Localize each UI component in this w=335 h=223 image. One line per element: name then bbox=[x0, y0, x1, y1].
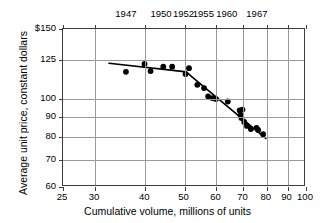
x-axis-title: Cumulative volume, millions of units bbox=[0, 205, 335, 217]
x-tick-top bbox=[185, 25, 186, 29]
x-tick-top bbox=[306, 25, 307, 29]
gridline-vertical bbox=[243, 29, 244, 185]
x-tick-label: 70 bbox=[237, 192, 248, 202]
gridline-vertical bbox=[288, 29, 289, 185]
year-tick-label: 1952 bbox=[173, 9, 194, 19]
data-point bbox=[123, 69, 129, 75]
x-tick-top bbox=[63, 25, 64, 29]
data-point bbox=[194, 82, 200, 88]
x-tick-label: 60 bbox=[210, 192, 221, 202]
x-tick-label: 25 bbox=[57, 192, 68, 202]
data-point bbox=[186, 65, 192, 71]
x-tick-top bbox=[216, 25, 217, 29]
gridline-vertical bbox=[267, 29, 268, 185]
x-tick-label: 40 bbox=[139, 192, 150, 202]
x-tick-top bbox=[243, 25, 244, 29]
x-tick-label: 80 bbox=[261, 192, 272, 202]
year-tick-label: 1955 bbox=[193, 9, 214, 19]
gridline-horizontal bbox=[63, 137, 304, 138]
year-tick-label: 1947 bbox=[115, 9, 136, 19]
gridline-horizontal bbox=[63, 117, 304, 118]
gridline-horizontal bbox=[63, 60, 304, 61]
data-point bbox=[255, 127, 261, 133]
y-tick bbox=[59, 160, 63, 161]
data-point bbox=[201, 85, 207, 91]
y-axis-title: Average unit price, constant dollars bbox=[17, 28, 29, 198]
y-tick bbox=[59, 117, 63, 118]
year-tick-label: 1950 bbox=[151, 9, 172, 19]
gridline-horizontal bbox=[63, 160, 304, 161]
y-tick-label: 100 bbox=[40, 93, 56, 103]
x-tick-top bbox=[95, 25, 96, 29]
x-tick-label: 90 bbox=[281, 192, 292, 202]
y-tick bbox=[59, 60, 63, 61]
gridline-vertical bbox=[185, 29, 186, 185]
data-point bbox=[169, 64, 175, 70]
data-point bbox=[160, 64, 166, 70]
year-tick-label: 1967 bbox=[246, 9, 267, 19]
year-tick-label: 1960 bbox=[216, 9, 237, 19]
gridline-vertical bbox=[145, 29, 146, 185]
y-tick-label: $150 bbox=[35, 23, 56, 33]
y-tick bbox=[59, 187, 63, 188]
gridline-vertical bbox=[216, 29, 217, 185]
y-tick-label: 70 bbox=[45, 154, 56, 164]
x-tick-label: 100 bbox=[297, 192, 313, 202]
gridline-vertical bbox=[95, 29, 96, 185]
x-tick-label: 30 bbox=[89, 192, 100, 202]
y-tick bbox=[59, 137, 63, 138]
x-tick-top bbox=[267, 25, 268, 29]
data-point bbox=[240, 107, 246, 113]
x-tick-label: 50 bbox=[178, 192, 189, 202]
y-tick bbox=[59, 29, 63, 30]
y-tick-label: 60 bbox=[45, 181, 56, 191]
experience-curve-chart: 253040506070809010060708090100125$150194… bbox=[0, 0, 335, 223]
y-tick-label: 80 bbox=[45, 131, 56, 141]
data-point bbox=[248, 126, 254, 132]
gridline-horizontal bbox=[63, 99, 304, 100]
data-point bbox=[260, 131, 266, 137]
y-tick-label: 90 bbox=[45, 111, 56, 121]
y-tick bbox=[59, 99, 63, 100]
y-tick-label: 125 bbox=[40, 54, 56, 64]
x-tick-top bbox=[145, 25, 146, 29]
x-tick-top bbox=[288, 25, 289, 29]
plot-area bbox=[62, 28, 305, 186]
data-point bbox=[148, 68, 154, 74]
